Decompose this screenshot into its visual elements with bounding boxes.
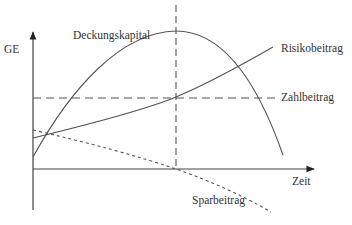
- risikobeitrag-label: Risikobeitrag: [281, 43, 343, 55]
- risikobeitrag-curve: [33, 47, 273, 138]
- x-axis-label: Zeit: [292, 176, 311, 188]
- diagram-svg: [0, 0, 352, 225]
- deckungskapital-curve: [33, 31, 283, 157]
- sparbeitrag-label: Sparbeitrag: [192, 195, 245, 207]
- diagram-canvas: GE Zeit Deckungskapital Risikobeitrag Za…: [0, 0, 352, 225]
- zahlbeitrag-label: Zahlbeitrag: [281, 92, 334, 104]
- y-axis-label: GE: [4, 44, 19, 56]
- deckungskapital-label: Deckungskapital: [73, 30, 150, 42]
